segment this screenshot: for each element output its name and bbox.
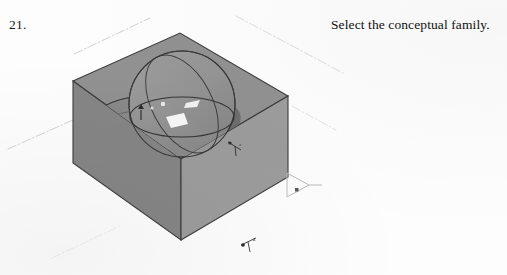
specular-highlight-dot-1 <box>161 102 165 106</box>
axis-indicator-bottom: z <box>241 236 256 252</box>
reference-plane-right <box>292 106 336 130</box>
isometric-model-drawing: z z <box>0 0 507 275</box>
axis-bottom-y <box>248 242 250 252</box>
reference-plane-upper-right <box>236 16 345 74</box>
axis-bottom-origin <box>241 243 245 247</box>
flip-arrow-control-right[interactable] <box>287 173 322 197</box>
reference-plane-upper-left <box>74 18 150 54</box>
reference-plane-lower-left <box>52 226 120 258</box>
reference-plane-left <box>8 120 73 149</box>
scanned-page: 21. Select the conceptual family. <box>0 0 507 275</box>
flip-arrow-triangle[interactable] <box>287 173 309 197</box>
axis-right-origin <box>228 141 231 144</box>
specular-highlight-dot-2 <box>150 106 153 109</box>
axis-bottom-label: z <box>253 236 256 242</box>
cad-3d-viewport[interactable]: z z <box>0 0 507 275</box>
flip-arrow-node[interactable] <box>295 188 299 192</box>
